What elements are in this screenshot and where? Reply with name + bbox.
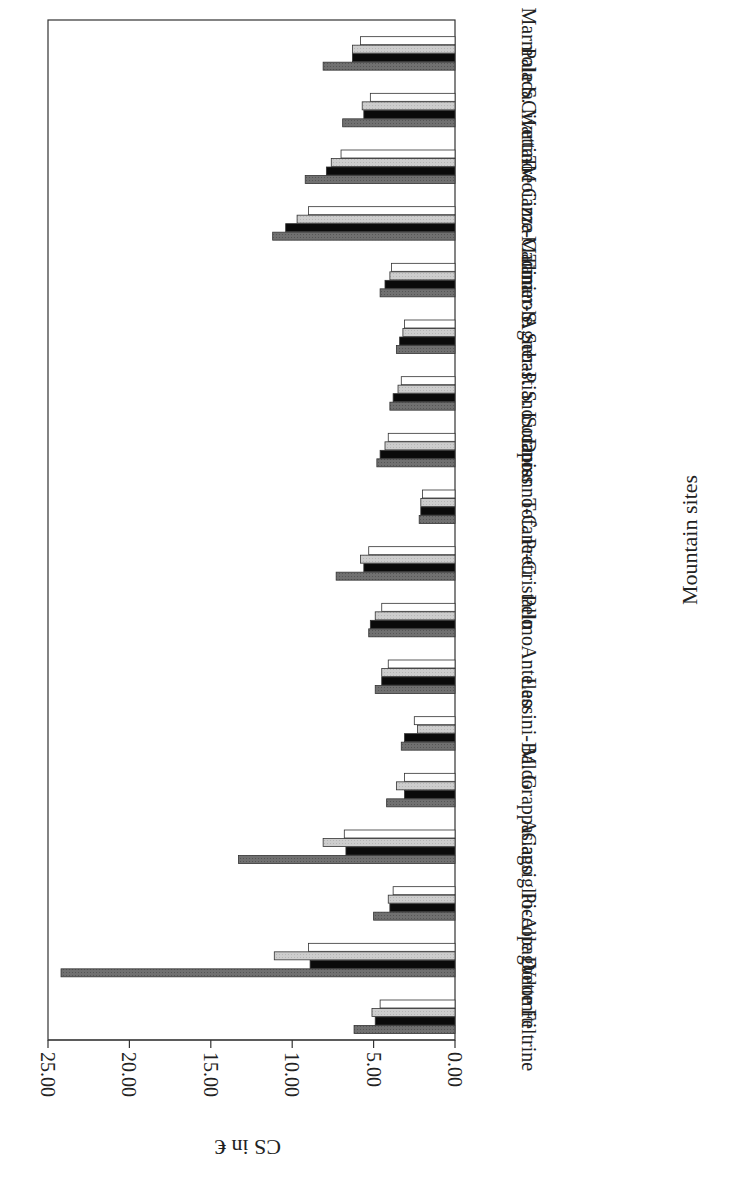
x-axis-title: Mountain sites	[677, 475, 702, 605]
bar	[364, 564, 455, 572]
bar	[364, 110, 455, 118]
bar	[388, 895, 455, 903]
bar	[398, 385, 455, 393]
bar	[286, 224, 455, 232]
bar	[385, 442, 455, 450]
bar	[305, 176, 455, 184]
bar	[400, 337, 455, 345]
bar	[375, 1017, 455, 1025]
bar	[405, 734, 455, 742]
bar	[401, 377, 455, 385]
bar	[352, 45, 455, 53]
tick-label: 25.00	[37, 1052, 59, 1097]
bar	[61, 969, 455, 977]
tick-label: 0.00	[444, 1052, 466, 1087]
bar	[310, 960, 455, 968]
bar	[323, 839, 455, 847]
bar	[419, 516, 455, 524]
bar	[370, 620, 455, 628]
category-labels: Vette FeltrinePiccole DolomitiCansiglio-…	[517, 8, 540, 1072]
bar	[326, 167, 455, 175]
bar	[370, 93, 455, 101]
bar	[401, 742, 455, 750]
bar	[361, 555, 455, 563]
bar-chart: 0.005.0010.0015.0020.0025.00 Vette Feltr…	[0, 0, 730, 1190]
bar	[387, 799, 455, 807]
bar	[392, 263, 455, 271]
bar	[390, 272, 455, 280]
bar	[354, 1026, 455, 1034]
bar	[346, 847, 455, 855]
bar	[380, 289, 455, 297]
bar	[405, 320, 455, 328]
bar	[274, 952, 455, 960]
bar	[390, 904, 455, 912]
bar	[352, 54, 455, 62]
bar	[369, 629, 455, 637]
bar	[362, 102, 455, 110]
bar	[396, 782, 455, 790]
bar	[385, 280, 455, 288]
bar	[343, 119, 455, 127]
bar	[238, 856, 455, 864]
bar	[418, 725, 455, 733]
bar	[308, 207, 455, 215]
category-label: Antelao	[518, 645, 540, 708]
bar	[390, 402, 455, 410]
bar	[414, 717, 455, 725]
value-axis: 0.005.0010.0015.0020.0025.00	[37, 1040, 466, 1097]
bar	[308, 943, 455, 951]
y-axis-title: CS in €	[215, 1135, 281, 1160]
bar	[393, 394, 455, 402]
bar	[341, 150, 455, 158]
bar	[375, 612, 455, 620]
bar	[374, 912, 455, 920]
bar	[421, 499, 455, 507]
bar	[405, 790, 455, 798]
bar	[361, 37, 455, 45]
bar	[344, 830, 455, 838]
bar	[382, 677, 455, 685]
bar	[422, 490, 455, 498]
bar	[369, 547, 455, 555]
bar	[380, 450, 455, 458]
bar	[388, 433, 455, 441]
bar	[331, 159, 455, 167]
bar	[382, 669, 455, 677]
bar	[372, 1009, 455, 1017]
category-label: Marmolada	[518, 8, 540, 100]
bar	[273, 232, 455, 240]
bar	[380, 1000, 455, 1008]
tick-label: 15.00	[200, 1052, 222, 1097]
bar	[393, 887, 455, 895]
tick-label: 10.00	[281, 1052, 303, 1097]
bar	[323, 62, 455, 70]
bar	[403, 329, 455, 337]
bar	[375, 686, 455, 694]
bar	[377, 459, 455, 467]
bar	[388, 660, 455, 668]
tick-label: 5.00	[363, 1052, 385, 1087]
bar	[336, 572, 455, 580]
bar	[297, 215, 455, 223]
bar	[396, 346, 455, 354]
bar	[405, 773, 455, 781]
bar	[382, 603, 455, 611]
bar	[421, 507, 455, 515]
tick-label: 20.00	[118, 1052, 140, 1097]
